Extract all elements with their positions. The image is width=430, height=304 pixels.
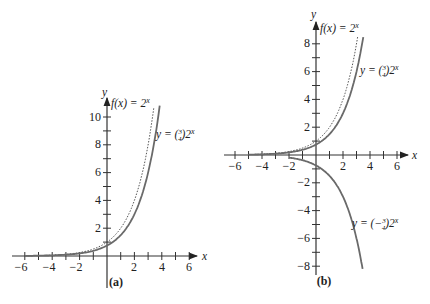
figure: x y −6 −4 −2 2 4 6 2 4 6 8 10 f(x) = 2x …	[0, 0, 430, 304]
x-axis-label-a: x	[201, 250, 208, 262]
y-tick-label: −8	[297, 259, 310, 273]
y-axis-label-b: y	[310, 8, 317, 21]
curve-three-quarters-2x-a	[25, 106, 160, 256]
y-tick-label: 2	[95, 221, 101, 235]
x-tick-label: −6	[15, 260, 28, 274]
y-tick-label: 6	[304, 64, 310, 78]
legend-h-b: y = (−34)2x	[351, 216, 399, 232]
legend-g-a: y = (34)2x	[155, 127, 195, 143]
x-axis-label-b: x	[411, 149, 418, 161]
x-tick-label: −4	[256, 159, 269, 173]
legend-g-b: y = (34)2x	[359, 63, 399, 79]
y-tick-label: 8	[304, 36, 310, 50]
x-tick-label: 4	[159, 260, 165, 274]
curve-2x-a	[25, 107, 154, 256]
panel-b: x y −6 −4 −2 2 4 6 8 6 4 2 −2 −4 −6 −8 f…	[224, 8, 418, 288]
x-tick-label: −6	[229, 159, 242, 173]
y-tick-label: 8	[95, 137, 101, 151]
x-tick-label: 6	[394, 159, 400, 173]
legend-f-a: f(x) = 2x	[111, 96, 150, 110]
y-tick-label: −4	[297, 203, 310, 217]
x-tick-label: −2	[70, 260, 83, 274]
caption-a: (a)	[109, 275, 123, 289]
y-tick-label: −6	[297, 231, 310, 245]
y-tick-label: 4	[95, 193, 101, 207]
panel-a: x y −6 −4 −2 2 4 6 2 4 6 8 10 f(x) = 2x …	[12, 86, 208, 289]
y-tick-label: 6	[95, 165, 101, 179]
caption-b: (b)	[317, 274, 332, 288]
y-axis-label-a: y	[101, 86, 108, 99]
x-tick-label: 6	[186, 260, 192, 274]
x-tick-label: 4	[367, 159, 373, 173]
legend-f-b: f(x) = 2x	[320, 21, 359, 35]
x-tick-label: −4	[43, 260, 56, 274]
y-tick-label: −2	[297, 175, 310, 189]
x-tick-label: −2	[283, 159, 296, 173]
x-tick-label: 2	[131, 260, 137, 274]
y-tick-label: 4	[304, 92, 310, 106]
y-tick-label: 2	[304, 120, 310, 134]
x-tick-label: 2	[340, 159, 346, 173]
y-tick-label: 10	[89, 110, 101, 124]
